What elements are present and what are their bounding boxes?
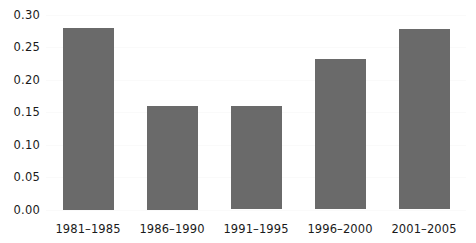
bar-chart: 0.000.050.100.150.200.250.30 1981–198519… (0, 0, 476, 243)
x-tick-label: 2001–2005 (391, 222, 456, 236)
bar[interactable] (231, 106, 282, 209)
bar[interactable] (399, 29, 450, 209)
bar[interactable] (147, 106, 198, 210)
bar[interactable] (315, 59, 366, 210)
x-tick-label: 1996–2000 (307, 222, 372, 236)
x-tick-label: 1991–1995 (223, 222, 288, 236)
x-tick-label: 1981–1985 (55, 222, 120, 236)
bars-layer (0, 0, 476, 243)
bar[interactable] (63, 28, 114, 210)
x-tick-label: 1986–1990 (139, 222, 204, 236)
